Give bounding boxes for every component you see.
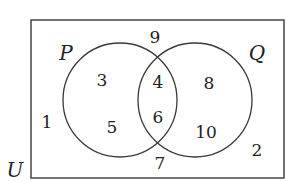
region-outside-value: 7 (155, 153, 166, 173)
region-intersection-value: 4 (153, 72, 164, 92)
set-p-label: P (58, 41, 73, 65)
region-p-only-value: 3 (97, 70, 108, 90)
set-q-label: Q (249, 41, 265, 65)
region-p-only-value: 5 (107, 117, 118, 137)
region-outside-value: 2 (252, 140, 263, 160)
region-outside-value: 9 (150, 27, 161, 47)
region-q-only-value: 8 (204, 73, 215, 93)
venn-diagram: P Q U 3 5 4 6 8 10 9 1 7 2 (0, 0, 288, 182)
region-q-only-value: 10 (195, 122, 217, 142)
set-p-circle (63, 43, 177, 157)
region-outside-value: 1 (42, 112, 53, 132)
universe-label: U (7, 158, 25, 182)
region-intersection-value: 6 (153, 107, 164, 127)
